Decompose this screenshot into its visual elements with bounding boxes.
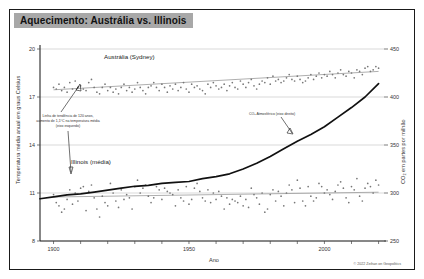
tick-labels: 811141720250300350400450190019502000 bbox=[29, 46, 399, 252]
x-axis-title: Ano bbox=[209, 257, 219, 263]
trend-lines bbox=[54, 71, 379, 197]
trend-annotation-line1: Linha de tendência de 120 anos, bbox=[43, 114, 94, 118]
chart-svg: 811141720250300350400450190019502000 Tem… bbox=[9, 9, 415, 270]
svg-text:250: 250 bbox=[390, 238, 399, 244]
svg-text:11: 11 bbox=[29, 190, 35, 196]
line-co2 bbox=[40, 84, 379, 199]
svg-text:2000: 2000 bbox=[318, 246, 330, 252]
co2-leader-line bbox=[281, 117, 292, 133]
scatter-illinois bbox=[53, 178, 380, 218]
svg-text:20: 20 bbox=[29, 46, 35, 52]
y2-axis-title: CO₂ em partes por milhão bbox=[400, 119, 406, 184]
chart-figure: Aquecimento: Austrália vs. Illinois 8111… bbox=[0, 0, 424, 279]
trend-leader-down bbox=[68, 131, 71, 172]
trend-annotation-line3: (eixo esquerdo) bbox=[56, 124, 80, 128]
svg-text:1900: 1900 bbox=[48, 246, 60, 252]
credit-text: © 2022 Zeihan on Geopolitics bbox=[354, 262, 402, 266]
svg-text:17: 17 bbox=[29, 94, 35, 100]
series-label-illinois: Illinois (média) bbox=[71, 158, 111, 165]
plot-area: 811141720250300350400450190019502000 Tem… bbox=[9, 9, 415, 270]
svg-text:14: 14 bbox=[29, 142, 35, 148]
svg-text:1950: 1950 bbox=[183, 246, 195, 252]
svg-text:400: 400 bbox=[390, 94, 399, 100]
svg-text:450: 450 bbox=[390, 46, 399, 52]
axes bbox=[37, 45, 388, 244]
y-axis-title: Temperatura média anual em graus Celsius bbox=[15, 76, 21, 184]
trend-annotation-line2: aumento de 1,1°C na temperatura média bbox=[36, 119, 100, 123]
co2-annotation: CO₂ Atmosférico (eixo direito) bbox=[249, 112, 295, 134]
co2-annotation-line1: CO₂ Atmosférico (eixo direito) bbox=[249, 112, 295, 116]
co2-leader-arrow bbox=[287, 128, 293, 134]
svg-text:8: 8 bbox=[32, 238, 35, 244]
svg-text:300: 300 bbox=[390, 190, 399, 196]
svg-text:350: 350 bbox=[390, 142, 399, 148]
series-label-australia: Austrália (Sydney) bbox=[104, 53, 155, 60]
